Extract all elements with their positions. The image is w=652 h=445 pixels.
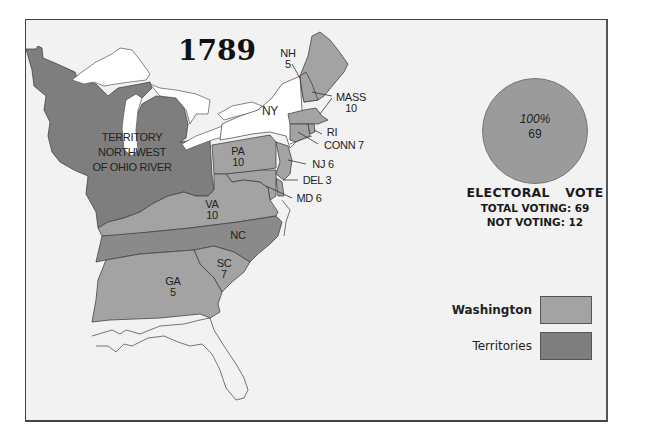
label-nh-votes: 5 xyxy=(276,59,300,70)
lake-superior xyxy=(72,48,150,86)
label-conn: CONN 7 xyxy=(318,140,370,151)
label-territory: TERRITORY NORTHWEST OF OHIO RIVER xyxy=(82,130,182,175)
legend-item-washington: Washington xyxy=(432,296,592,324)
legend-swatch-territories xyxy=(540,332,592,360)
label-ny: NY xyxy=(258,106,282,117)
pie-percent: 100% xyxy=(482,112,588,126)
label-mass-votes: 10 xyxy=(332,103,370,114)
florida-outline xyxy=(92,318,248,400)
label-territory-line2: NORTHWEST xyxy=(82,145,182,160)
label-pa-votes: 10 xyxy=(226,157,250,168)
label-nc: NC xyxy=(226,230,250,241)
legend-label-territories: Territories xyxy=(432,339,532,353)
label-ri: RI xyxy=(324,127,340,138)
label-sc: SC 7 xyxy=(214,258,234,280)
electoral-pie-chart: 100% 69 xyxy=(482,78,590,186)
electoral-vote-title: ELECTORAL VOTE xyxy=(455,185,615,200)
label-md: MD 6 xyxy=(292,193,326,204)
label-del: DEL 3 xyxy=(299,175,335,186)
label-nj: NJ 6 xyxy=(306,159,340,170)
label-mass: MASS 10 xyxy=(332,92,370,114)
legend-label-washington: Washington xyxy=(432,303,532,317)
state-del xyxy=(276,178,284,196)
label-territory-line3: OF OHIO RIVER xyxy=(82,160,182,175)
label-va: VA 10 xyxy=(200,199,224,221)
pie-value: 69 xyxy=(482,127,588,141)
legend-item-territories: Territories xyxy=(432,332,592,360)
label-nh: NH 5 xyxy=(276,48,300,70)
label-va-votes: 10 xyxy=(200,210,224,221)
electoral-vote-summary: ELECTORAL VOTE TOTAL VOTING: 69 NOT VOTI… xyxy=(455,185,615,228)
label-sc-votes: 7 xyxy=(214,269,234,280)
label-territory-line1: TERRITORY xyxy=(82,130,182,145)
legend-swatch-washington xyxy=(540,296,592,324)
not-voting: NOT VOTING: 12 xyxy=(455,216,615,228)
total-voting: TOTAL VOTING: 69 xyxy=(455,202,615,214)
label-ga-votes: 5 xyxy=(161,287,185,298)
election-year-title: 1789 xyxy=(178,34,256,67)
label-ga: GA 5 xyxy=(161,276,185,298)
label-pa: PA 10 xyxy=(226,146,250,168)
